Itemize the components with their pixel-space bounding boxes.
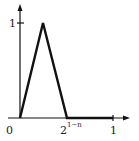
hat-function-line	[20, 23, 113, 118]
y-axis-arrow-icon	[18, 4, 23, 11]
plot-canvas: 1 0 2 1−n 1	[0, 0, 139, 141]
x-tick-label-1: 1	[110, 124, 117, 137]
x-tick-label-2-exponent: 1−n	[67, 121, 82, 129]
y-tick-label-1: 1	[9, 17, 16, 30]
x-axis-arrow-icon	[123, 116, 130, 121]
origin-label: 0	[6, 124, 13, 137]
x-tick-label-2-base: 2	[60, 124, 67, 137]
